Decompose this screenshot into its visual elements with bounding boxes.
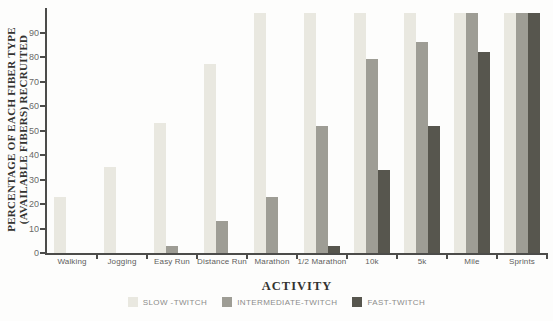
y-axis-tick (40, 81, 45, 83)
legend-label-intermediate-twitch: INTERMEDIATE-TWITCH (237, 298, 337, 307)
bar-group-marathon (247, 8, 297, 253)
y-axis-tick (40, 105, 45, 107)
bar-fast-twitch-1-2-marathon (328, 246, 340, 253)
y-axis-tick (40, 203, 45, 205)
bar-slow-twitch-walking (54, 197, 66, 253)
x-tick-label-easy-run: Easy Run (147, 257, 197, 266)
y-axis-tick (40, 154, 45, 156)
bar-intermediate-twitch-mile (466, 13, 478, 253)
y-axis-tick (40, 32, 45, 34)
bar-intermediate-twitch-5k (416, 42, 428, 253)
bar-slow-twitch-easy-run (154, 123, 166, 253)
bar-slow-twitch-jogging (104, 167, 116, 253)
bar-intermediate-twitch-10k (366, 59, 378, 253)
legend-item-intermediate-twitch: INTERMEDIATE-TWITCH (222, 297, 337, 307)
bar-slow-twitch-5k (404, 13, 416, 253)
bar-intermediate-twitch-easy-run (166, 246, 178, 253)
legend-item-slow-twitch: SLOW -TWITCH (128, 297, 207, 307)
y-tick-label: 80 (13, 52, 39, 62)
legend-item-fast-twitch: FAST-TWITCH (352, 297, 425, 307)
bar-fast-twitch-mile (478, 52, 490, 253)
bar-fast-twitch-sprints (528, 13, 540, 253)
x-axis-title: ACTIVITY (47, 279, 547, 294)
legend-swatch-intermediate-twitch (222, 297, 232, 307)
x-tick-label-5k: 5k (397, 257, 447, 266)
x-tick-label-1-2-marathon: 1/2 Marathon (297, 257, 347, 266)
y-tick-label: 50 (13, 126, 39, 136)
bar-fast-twitch-5k (428, 126, 440, 253)
legend-label-fast-twitch: FAST-TWITCH (367, 298, 425, 307)
x-tick-label-jogging: Jogging (97, 257, 147, 266)
y-axis-tick (40, 56, 45, 58)
bar-fast-twitch-10k (378, 170, 390, 253)
x-axis-labels: WalkingJoggingEasy RunDistance RunMarath… (47, 257, 547, 266)
bar-group-10k (347, 8, 397, 253)
y-tick-label: 10 (13, 224, 39, 234)
y-tick-label: 30 (13, 175, 39, 185)
y-tick-label: 40 (13, 150, 39, 160)
bar-slow-twitch-1-2-marathon (304, 13, 316, 253)
legend: SLOW -TWITCHINTERMEDIATE-TWITCHFAST-TWIT… (0, 296, 553, 308)
bar-intermediate-twitch-distance-run (216, 221, 228, 253)
bar-group-1-2-marathon (297, 8, 347, 253)
legend-swatch-slow-twitch (128, 297, 138, 307)
bar-group-sprints (497, 8, 547, 253)
x-tick-label-marathon: Marathon (247, 257, 297, 266)
bar-slow-twitch-mile (454, 13, 466, 253)
y-axis-tick (40, 228, 45, 230)
fiber-recruitment-bar-chart: PERCENTAGE OF EACH FIBER TYPE (AVAILABLE… (0, 0, 553, 321)
bar-intermediate-twitch-marathon (266, 197, 278, 253)
x-tick-label-mile: Mile (447, 257, 497, 266)
x-tick-label-distance-run: Distance Run (197, 257, 247, 266)
x-tick-label-sprints: Sprints (497, 257, 547, 266)
bar-group-mile (447, 8, 497, 253)
bar-intermediate-twitch-sprints (516, 13, 528, 253)
x-tick-label-10k: 10k (347, 257, 397, 266)
y-tick-label: 0 (13, 248, 39, 258)
bar-slow-twitch-distance-run (204, 64, 216, 253)
y-axis-tick (40, 130, 45, 132)
bar-group-easy-run (147, 8, 197, 253)
legend-label-slow-twitch: SLOW -TWITCH (143, 298, 207, 307)
y-tick-label: 60 (13, 101, 39, 111)
bar-slow-twitch-sprints (504, 13, 516, 253)
bar-slow-twitch-10k (354, 13, 366, 253)
y-tick-label: 90 (13, 28, 39, 38)
bar-group-walking (47, 8, 97, 253)
bar-intermediate-twitch-1-2-marathon (316, 126, 328, 253)
bar-group-jogging (97, 8, 147, 253)
y-axis-tick (40, 252, 45, 254)
y-tick-label: 20 (13, 199, 39, 209)
bar-group-5k (397, 8, 447, 253)
x-tick-label-walking: Walking (47, 257, 97, 266)
legend-swatch-fast-twitch (352, 297, 362, 307)
plot-area: 0102030405060708090 (47, 8, 547, 253)
y-axis-tick (40, 179, 45, 181)
bar-group-distance-run (197, 8, 247, 253)
bar-slow-twitch-marathon (254, 13, 266, 253)
y-tick-label: 70 (13, 77, 39, 87)
